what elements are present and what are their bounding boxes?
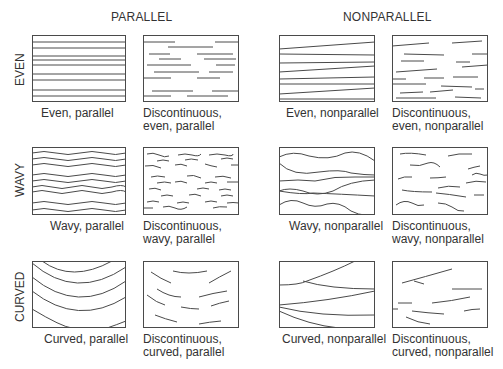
- discontinuous-curved-nonparallel-diagram: [392, 261, 488, 328]
- caption-curved-nonparallel: Curved, nonparallel: [282, 333, 386, 346]
- caption-wavy-parallel: Wavy, parallel: [50, 220, 124, 233]
- panel-wavy-parallel: [32, 147, 126, 215]
- column-header-parallel: PARALLEL: [111, 10, 172, 24]
- discontinuous-curved-parallel-diagram: [143, 261, 239, 328]
- panel-discontinuous-even-nonparallel: [392, 35, 488, 102]
- panel-discontinuous-even-parallel: [143, 35, 239, 102]
- caption-discontinuous-even-parallel: Discontinuous, even, parallel: [143, 107, 253, 133]
- panel-curved-parallel: [32, 261, 126, 328]
- wavy-nonparallel-diagram: [279, 147, 375, 215]
- caption-even-nonparallel: Even, nonparallel: [286, 107, 379, 120]
- caption-discontinuous-curved-parallel: Discontinuous, curved, parallel: [143, 333, 261, 359]
- caption-discontinuous-wavy-parallel: Discontinuous, wavy, parallel: [143, 220, 253, 246]
- even-nonparallel-diagram: [279, 35, 375, 102]
- discontinuous-wavy-nonparallel-diagram: [392, 147, 488, 215]
- caption-discontinuous-curved-nonparallel: Discontinuous, curved, nonparallel: [392, 333, 503, 359]
- caption-wavy-nonparallel: Wavy, nonparallel: [289, 220, 383, 233]
- caption-discontinuous-wavy-nonparallel: Discontinuous, wavy, nonparallel: [392, 220, 502, 246]
- discontinuous-wavy-parallel-diagram: [143, 147, 239, 215]
- panel-discontinuous-wavy-nonparallel: [392, 147, 488, 215]
- curved-nonparallel-diagram: [279, 261, 375, 328]
- wavy-parallel-diagram: [32, 147, 126, 215]
- row-header-wavy: WAVY: [13, 163, 27, 197]
- panel-even-parallel: [32, 35, 126, 102]
- caption-curved-parallel: Curved, parallel: [44, 333, 128, 346]
- panel-discontinuous-curved-parallel: [143, 261, 239, 328]
- panel-discontinuous-wavy-parallel: [143, 147, 239, 215]
- discontinuous-even-parallel-diagram: [143, 35, 239, 102]
- curved-parallel-diagram: [32, 261, 126, 328]
- column-header-nonparallel: NONPARALLEL: [343, 10, 432, 24]
- panel-wavy-nonparallel: [279, 147, 375, 215]
- even-parallel-diagram: [32, 35, 126, 102]
- discontinuous-even-nonparallel-diagram: [392, 35, 488, 102]
- panel-discontinuous-curved-nonparallel: [392, 261, 488, 328]
- row-header-curved: CURVED: [13, 272, 27, 322]
- row-header-even: EVEN: [13, 53, 27, 86]
- panel-curved-nonparallel: [279, 261, 375, 328]
- caption-discontinuous-even-nonparallel: Discontinuous, even, nonparallel: [392, 107, 502, 133]
- caption-even-parallel: Even, parallel: [41, 107, 114, 120]
- panel-even-nonparallel: [279, 35, 375, 102]
